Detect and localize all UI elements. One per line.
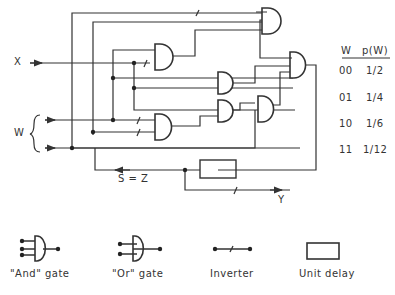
circuit-diagram — [0, 0, 395, 295]
feedback-label: S = Z — [118, 173, 148, 184]
legend-unit-delay-label: Unit delay — [299, 268, 355, 279]
x-input-label: X — [14, 56, 21, 67]
table-row-w: 10 — [339, 118, 353, 129]
or-gate-final — [290, 52, 306, 78]
table-row-p: 1/4 — [366, 92, 384, 103]
legend-inverter-label: Inverter — [210, 268, 254, 279]
and-gate-lower — [218, 100, 233, 122]
output-label: Y — [278, 194, 285, 205]
w-input-label: W — [14, 127, 24, 138]
and-gate-x — [155, 44, 173, 70]
and-gate-mid — [218, 72, 233, 94]
table-row-p: 1/6 — [366, 118, 384, 129]
table-row-w: 00 — [339, 65, 353, 76]
table-row-p: 1/12 — [363, 144, 387, 155]
table-row-w: 01 — [339, 92, 353, 103]
legend-symbols — [22, 236, 339, 261]
table-row-p: 1/2 — [366, 65, 384, 76]
table-row-w: 11 — [339, 144, 353, 155]
table-header-w: W — [341, 45, 351, 56]
legend-and-gate-label: "And" gate — [10, 268, 69, 279]
legend-or-gate-label: "Or" gate — [112, 268, 163, 279]
and-gate-w — [155, 114, 172, 140]
table-header-p: p(W) — [362, 45, 388, 56]
or-gate-lower — [258, 96, 274, 122]
